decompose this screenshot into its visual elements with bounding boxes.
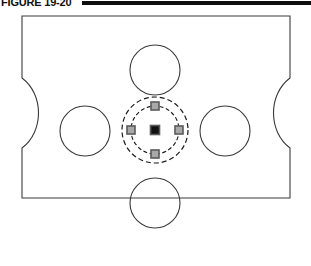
marker-north [151,102,159,110]
figure-caption-label: FIGURE 19-20 [1,0,71,8]
marker-south [151,150,159,158]
drawing-svg [0,12,311,266]
technical-drawing [0,12,311,266]
figure-page: FIGURE 19-20 [0,0,311,266]
marker-west [127,126,135,134]
figure-caption-band: FIGURE 19-20 [0,0,311,12]
marker-center [151,126,160,135]
marker-east [175,126,183,134]
caption-rule [82,1,311,5]
